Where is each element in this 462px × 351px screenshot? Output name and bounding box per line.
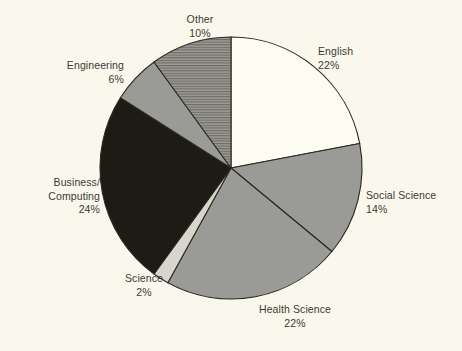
pie-label-name: Social Science [366, 189, 436, 203]
pie-label-engineering: Engineering6% [0, 59, 124, 86]
pie-label-name: Science [64, 272, 224, 286]
pie-label-science: Science2% [64, 272, 224, 299]
pie-label-english: English22% [318, 45, 353, 72]
pie-label-value: 14% [366, 203, 436, 217]
pie-label-name: Other [120, 13, 280, 27]
pie-label-other: Other10% [120, 13, 280, 40]
pie-label-value: 10% [120, 27, 280, 41]
pie-label-name: English [318, 45, 353, 59]
pie-label-value: 6% [0, 73, 124, 87]
pie-label-social-science: Social Science14% [366, 189, 436, 216]
pie-chart-figure: English22%Social Science14%Health Scienc… [0, 0, 462, 351]
pie-slices-group [100, 37, 362, 299]
pie-label-value: 22% [215, 317, 375, 331]
pie-label-health-science: Health Science22% [215, 303, 375, 330]
pie-label-value: 22% [318, 59, 353, 73]
pie-label-name: Health Science [215, 303, 375, 317]
pie-label-value: 2% [64, 286, 224, 300]
pie-label-name: Business/ [0, 176, 100, 190]
pie-label-value: 24% [0, 203, 100, 217]
pie-label-name: Computing [0, 190, 100, 204]
pie-label-business-computing: Business/Computing24% [0, 176, 100, 217]
pie-label-name: Engineering [0, 59, 124, 73]
